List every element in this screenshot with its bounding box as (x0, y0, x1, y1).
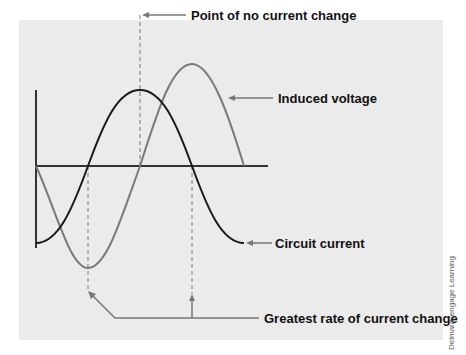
arrow-icon (228, 95, 235, 101)
greatest-rate-leader (90, 293, 259, 318)
arrow-icon (142, 12, 149, 18)
inductance-diagram: Point of no current change Induced volta… (0, 0, 466, 355)
image-credit: Delmar/Cengage Learning (447, 256, 456, 350)
label-no-change: Point of no current change (191, 8, 356, 23)
arrow-icon (246, 240, 253, 246)
label-circuit-current: Circuit current (275, 236, 365, 251)
label-induced-voltage: Induced voltage (278, 91, 377, 106)
label-greatest-rate: Greatest rate of current change (264, 311, 458, 326)
arrow-icon (189, 294, 195, 301)
